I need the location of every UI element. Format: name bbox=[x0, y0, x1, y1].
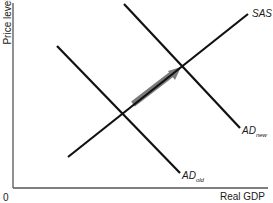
ad-old-curve bbox=[57, 46, 180, 173]
ad-new-label-sub: new bbox=[256, 132, 267, 138]
sas-label: SAS bbox=[252, 8, 272, 19]
ad-old-label: ADold bbox=[182, 170, 204, 183]
sas-label-text: SAS bbox=[252, 8, 272, 19]
ad-old-label-sub: old bbox=[196, 177, 204, 183]
ad-new-label: ADnew bbox=[242, 125, 267, 138]
y-axis-label: Price level bbox=[2, 0, 13, 47]
ad-new-label-main: AD bbox=[242, 125, 256, 136]
origin-label: 0 bbox=[3, 192, 9, 203]
chart-canvas bbox=[0, 0, 273, 203]
x-axis-label: Real GDP bbox=[220, 191, 265, 202]
ad-old-label-main: AD bbox=[182, 170, 196, 181]
